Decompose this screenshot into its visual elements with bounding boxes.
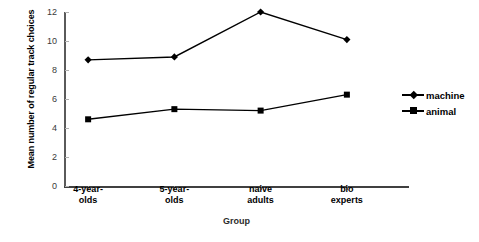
x-category-label: 4-year- olds	[58, 184, 118, 206]
data-point-animal-3	[344, 92, 350, 98]
data-point-machine-3	[343, 36, 350, 43]
x-category-label: 5-year- olds	[144, 184, 204, 206]
data-point-machine-2	[257, 8, 264, 15]
plot-area: 024681012	[64, 12, 409, 186]
y-tick-label: 10	[47, 36, 57, 46]
line-chart: Mean number of regular track choices 024…	[0, 0, 479, 242]
legend-label: animal	[426, 106, 456, 117]
series-layer	[64, 12, 409, 188]
series-line	[88, 95, 347, 120]
legend-swatch-square-icon	[402, 105, 424, 117]
y-tick-label: 8	[52, 65, 57, 75]
legend-marker-diamond-icon	[409, 91, 417, 99]
data-point-machine-1	[171, 53, 178, 60]
y-axis-title: Mean number of regular track choices	[26, 0, 36, 184]
x-category-label: bio experts	[317, 184, 377, 206]
chart-legend: machineanimal	[402, 87, 479, 119]
x-axis-title: Group	[64, 216, 409, 226]
data-point-machine-0	[85, 56, 92, 63]
y-tick-label: 12	[47, 7, 57, 17]
y-tick-label: 6	[52, 94, 57, 104]
series-animal	[85, 92, 350, 123]
data-point-animal-2	[258, 108, 264, 114]
legend-swatch-diamond-icon	[402, 89, 424, 101]
legend-label: machine	[426, 90, 465, 101]
legend-item-animal[interactable]: animal	[402, 103, 479, 119]
data-point-animal-1	[171, 106, 177, 112]
legend-marker-square-icon	[410, 107, 417, 114]
data-point-animal-0	[85, 116, 91, 122]
series-line	[88, 12, 347, 60]
y-tick-label: 4	[52, 123, 57, 133]
y-tick-label: 2	[52, 152, 57, 162]
series-machine	[85, 8, 351, 63]
x-category-label: naive adults	[231, 184, 291, 206]
legend-item-machine[interactable]: machine	[402, 87, 479, 103]
y-tick-label: 0	[52, 181, 57, 191]
